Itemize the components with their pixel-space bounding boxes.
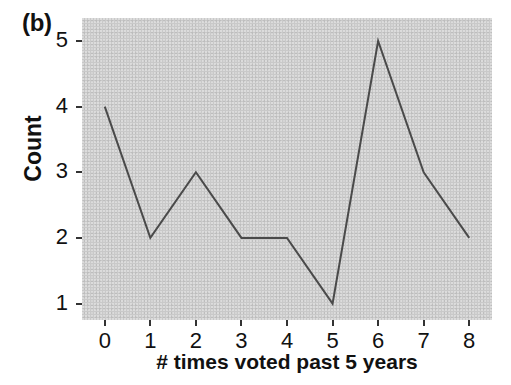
plot-area	[82, 18, 492, 320]
x-tick-mark-7	[423, 320, 425, 326]
y-tick-label-4: 4	[46, 93, 68, 119]
x-tick-mark-6	[377, 320, 379, 326]
x-tick-mark-3	[240, 320, 242, 326]
y-tick-label-3: 3	[46, 158, 68, 184]
data-series-line	[82, 18, 492, 320]
y-tick-label-2: 2	[46, 224, 68, 250]
y-tick-label-5: 5	[46, 27, 68, 53]
x-axis-title: # times voted past 5 years	[82, 350, 492, 374]
x-tick-mark-1	[149, 320, 151, 326]
x-tick-mark-8	[468, 320, 470, 326]
x-tick-mark-2	[195, 320, 197, 326]
y-tick-label-1: 1	[46, 290, 68, 316]
x-tick-mark-0	[104, 320, 106, 326]
x-tick-mark-4	[286, 320, 288, 326]
y-axis-title: Count	[20, 89, 47, 209]
chart-figure: (b) Count 12345 012345678 # times voted …	[0, 0, 511, 385]
x-tick-mark-5	[332, 320, 334, 326]
